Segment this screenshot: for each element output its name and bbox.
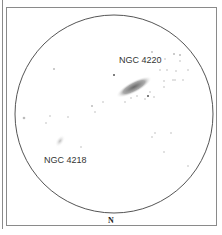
field-of-view: [0, 0, 222, 235]
label-ngc-4220: NGC 4220: [119, 55, 162, 65]
north-label: N: [108, 216, 114, 225]
galaxy-ngc-4218: [53, 133, 68, 149]
galaxy-ngc-4220: [114, 72, 155, 101]
stars: [23, 51, 189, 167]
eyepiece-circle: [15, 15, 213, 213]
label-ngc-4218: NGC 4218: [44, 155, 87, 165]
